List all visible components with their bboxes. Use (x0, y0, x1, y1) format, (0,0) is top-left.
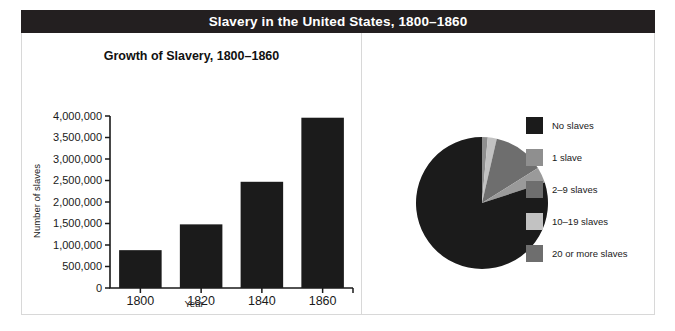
bar-y-tick-label: 2,500,000 (53, 174, 102, 186)
bar-y-tick-labels: 0500,0001,000,0001,500,0002,000,0002,500… (53, 110, 102, 294)
bar-y-tick-label: 0 (96, 282, 102, 294)
bar-y-tick-label: 2,000,000 (53, 196, 102, 208)
bar-chart-svg: 0500,0001,000,0001,500,0002,000,0002,500… (22, 33, 361, 315)
bar-column (301, 118, 344, 288)
legend-swatch (526, 245, 543, 262)
figure-container: Slavery in the United States, 1800–1860 … (0, 0, 675, 331)
bar-y-axis-label: Number of slaves (31, 164, 42, 238)
legend-label: 2–9 slaves (552, 184, 597, 195)
bar-x-tick-labels: 1800182018401860 (126, 294, 336, 308)
bar-chart-panel: Growth of Slavery, 1800–1860 0500,0001,0… (22, 33, 361, 315)
bar-y-tick-label: 1,500,000 (53, 217, 102, 229)
legend-label: 20 or more slaves (552, 248, 628, 259)
bar-y-tick-label: 3,000,000 (53, 153, 102, 165)
bar-y-tick-label: 500,000 (62, 260, 102, 272)
legend-swatch (526, 117, 543, 134)
legend-item: 10–19 slaves (526, 205, 656, 237)
panels-frame: Growth of Slavery, 1800–1860 0500,0001,0… (21, 33, 655, 315)
bar-column (119, 250, 162, 288)
legend-swatch (526, 149, 543, 166)
legend-item: 1 slave (526, 141, 656, 173)
bar-x-tick-label: 1860 (309, 294, 337, 308)
legend-item: 2–9 slaves (526, 173, 656, 205)
bar-x-axis-label: Year (184, 298, 203, 309)
legend-label: No slaves (552, 120, 594, 131)
bar-x-tick-label: 1840 (248, 294, 276, 308)
pie-chart-panel: Southerners Holding Slaves, 1860 No slav… (362, 33, 656, 315)
bar-y-tick-label: 1,000,000 (53, 239, 102, 251)
bar-column (180, 224, 223, 288)
legend-item: No slaves (526, 109, 656, 141)
legend-item: 20 or more slaves (526, 237, 656, 269)
legend-label: 10–19 slaves (552, 216, 608, 227)
legend-swatch (526, 213, 543, 230)
bar-column (241, 182, 284, 288)
bar-y-tick-label: 4,000,000 (53, 110, 102, 122)
figure-title: Slavery in the United States, 1800–1860 (209, 14, 468, 29)
pie-chart-legend: No slaves1 slave2–9 slaves10–19 slaves20… (526, 109, 656, 269)
bar-y-tick-label: 3,500,000 (53, 131, 102, 143)
legend-swatch (526, 181, 543, 198)
legend-label: 1 slave (552, 152, 582, 163)
bar-series (119, 118, 344, 288)
figure-title-bar: Slavery in the United States, 1800–1860 (21, 10, 655, 33)
bar-x-tick-label: 1800 (126, 294, 154, 308)
